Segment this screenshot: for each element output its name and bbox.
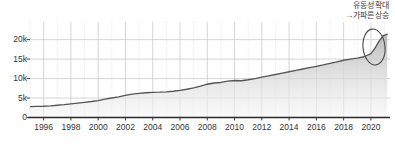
x-tick-label: 1998 xyxy=(61,123,80,132)
x-tick-label: 2020 xyxy=(361,123,380,132)
x-tick-label: 2016 xyxy=(307,123,326,132)
x-tick-label: 2002 xyxy=(116,123,135,132)
x-tick-label: 2004 xyxy=(143,123,162,132)
x-tick-label: 2012 xyxy=(252,123,271,132)
x-tick-label: 2008 xyxy=(198,123,217,132)
x-tick-label: 2018 xyxy=(334,123,353,132)
x-tick-label: 2010 xyxy=(225,123,244,132)
x-tick-label: 1996 xyxy=(34,123,53,132)
x-tick-label: 2006 xyxy=(171,123,190,132)
x-tick-label: 2000 xyxy=(89,123,108,132)
liquidity-area-chart: 유동성 확대 →가파른 상승 05k10k15k2 xyxy=(0,0,395,146)
x-tick-label: 2014 xyxy=(280,123,299,132)
x-axis-labels: 1996199820002002200420062008201020122014… xyxy=(0,0,395,146)
